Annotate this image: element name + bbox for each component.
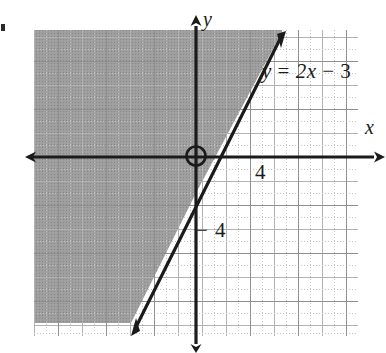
equation-term: 2x — [296, 59, 317, 83]
x-axis-tick-label-4: 4 — [255, 160, 266, 185]
y-axis-label: y — [203, 8, 212, 31]
equation-minus: − — [322, 59, 334, 83]
equation-lhs: y — [262, 59, 272, 83]
equation-annotation: y = 2x − 3 — [262, 59, 351, 84]
equation-constant: 3 — [340, 59, 351, 83]
x-axis-arrow-right — [374, 152, 385, 163]
y-axis-arrow-up — [191, 15, 202, 26]
coordinate-plane-svg — [0, 0, 386, 353]
equation-equals: = — [278, 59, 290, 83]
x-axis-label: x — [365, 116, 374, 139]
y-axis-arrow-down — [191, 344, 202, 353]
y-axis-tick-label-minus-4: − 4 — [196, 218, 227, 243]
figure-canvas: y x 4 − 4 y = 2x − 3 — [0, 0, 386, 353]
